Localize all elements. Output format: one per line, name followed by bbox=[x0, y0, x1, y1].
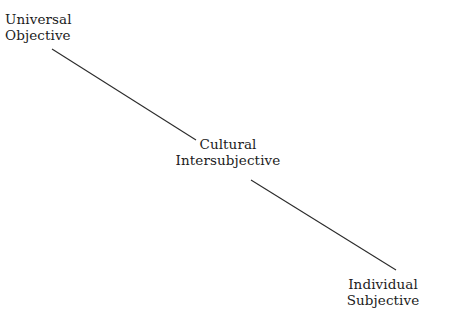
node-cultural-line2: Intersubjective bbox=[128, 152, 328, 168]
node-individual-line1: Individual bbox=[313, 276, 453, 292]
connector-universal-to-cultural bbox=[52, 49, 196, 140]
connector-cultural-to-individual bbox=[251, 180, 396, 270]
node-universal-objective: Universal Objective bbox=[5, 11, 72, 43]
node-cultural-line1: Cultural bbox=[128, 136, 328, 152]
node-individual-line2: Subjective bbox=[313, 292, 453, 308]
node-cultural-intersubjective: Cultural Intersubjective bbox=[128, 136, 328, 168]
node-universal-line1: Universal bbox=[5, 11, 72, 27]
node-universal-line2: Objective bbox=[5, 27, 72, 43]
node-individual-subjective: Individual Subjective bbox=[313, 276, 453, 308]
diagram-canvas: Universal Objective Cultural Intersubjec… bbox=[0, 0, 460, 321]
